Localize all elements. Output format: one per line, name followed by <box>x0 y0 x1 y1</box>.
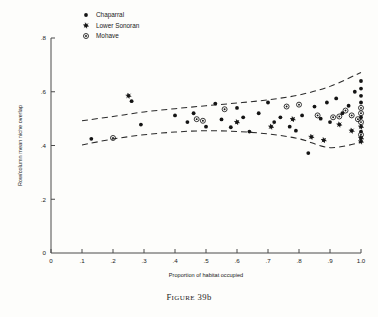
data-point <box>300 114 304 118</box>
data-point <box>257 111 261 115</box>
data-point <box>229 125 233 129</box>
data-point <box>349 113 354 118</box>
x-tick-label: .8 <box>296 257 302 264</box>
data-point <box>336 122 342 128</box>
x-tick-label: .5 <box>203 257 209 264</box>
series-lower-sonoran <box>126 93 364 144</box>
data-point <box>234 119 240 125</box>
y-tick-label: .4 <box>41 142 47 149</box>
data-point <box>130 99 134 103</box>
lower-confidence-band <box>82 131 361 148</box>
data-point <box>359 94 363 98</box>
x-tick-label: .3 <box>141 257 147 264</box>
data-point <box>192 111 196 115</box>
x-tick-label: .7 <box>265 257 271 264</box>
data-point <box>353 90 357 94</box>
data-point <box>313 105 317 109</box>
y-axis-title: Row/column mean niche overlap <box>17 105 23 186</box>
legend-marker-circled-dot <box>84 34 89 39</box>
caption-rest: IGURE <box>172 294 195 302</box>
y-tick-label: .8 <box>41 34 47 41</box>
data-point <box>126 93 132 99</box>
confidence-bands <box>82 72 361 147</box>
legend-label: Lower Sonoran <box>96 22 140 29</box>
x-tick-label: .2 <box>110 257 116 264</box>
legend-marker-star-dot <box>83 23 89 29</box>
data-point <box>89 137 93 141</box>
data-point <box>359 120 364 125</box>
x-tick-label: .6 <box>234 257 240 264</box>
data-point <box>315 113 320 118</box>
data-point <box>173 114 177 118</box>
data-point <box>222 107 227 112</box>
data-points <box>89 79 363 155</box>
data-point <box>334 97 338 101</box>
data-point <box>359 111 364 116</box>
legend-label: Mohave <box>96 32 119 39</box>
data-point <box>272 120 276 124</box>
x-tick-label: .4 <box>172 257 178 264</box>
data-point <box>290 116 296 122</box>
data-point <box>347 104 351 108</box>
data-point <box>306 151 310 155</box>
scatter-plot: 0.1.2.3.4.5.6.7.8.91.00.2.4.6.8 Proporti… <box>0 0 378 317</box>
data-point <box>359 105 364 110</box>
data-point <box>294 129 298 133</box>
data-point <box>331 115 336 120</box>
data-point <box>235 106 239 110</box>
x-tick-label: .1 <box>79 257 85 264</box>
data-point <box>139 123 143 127</box>
axes: 0.1.2.3.4.5.6.7.8.91.00.2.4.6.8 <box>41 34 366 264</box>
data-point <box>288 125 292 129</box>
data-point <box>359 87 363 91</box>
data-point <box>355 117 360 122</box>
series-chaparral <box>89 79 363 155</box>
data-point <box>248 130 252 134</box>
x-tick-label: 0 <box>49 257 53 264</box>
data-point <box>204 125 208 129</box>
x-tick-label: .9 <box>327 257 333 264</box>
data-point <box>337 114 342 119</box>
data-point <box>325 101 329 105</box>
data-point <box>111 135 116 140</box>
data-point <box>268 124 274 130</box>
data-point <box>297 102 302 107</box>
data-point <box>343 108 348 113</box>
data-point <box>321 137 327 143</box>
y-tick-label: .6 <box>41 88 47 95</box>
legend-label: Chaparral <box>96 11 124 19</box>
y-tick-label: 0 <box>43 249 47 256</box>
data-point <box>359 101 363 105</box>
x-tick-label: 1.0 <box>357 257 366 264</box>
data-point <box>284 104 289 109</box>
axis-lines <box>51 38 361 253</box>
data-point <box>309 134 315 140</box>
data-point <box>186 120 190 124</box>
caption-number: 39b <box>195 292 212 302</box>
data-point <box>194 117 199 122</box>
data-point <box>200 118 205 123</box>
x-axis-title: Proportion of habitat occupied <box>169 272 243 278</box>
data-point <box>359 79 363 83</box>
data-point <box>220 118 224 122</box>
y-tick-label: .2 <box>41 196 47 203</box>
legend-marker-filled-dot <box>84 13 88 17</box>
figure-caption: FIGURE 39b <box>0 286 378 304</box>
data-point <box>349 128 355 134</box>
data-point <box>279 115 283 119</box>
legend: ChaparralLower SonoranMohave <box>83 11 140 39</box>
data-point <box>266 101 270 105</box>
data-point <box>241 115 245 119</box>
figure-39b: 0.1.2.3.4.5.6.7.8.91.00.2.4.6.8 Proporti… <box>0 0 378 317</box>
data-point <box>328 120 332 124</box>
data-point <box>213 102 217 106</box>
